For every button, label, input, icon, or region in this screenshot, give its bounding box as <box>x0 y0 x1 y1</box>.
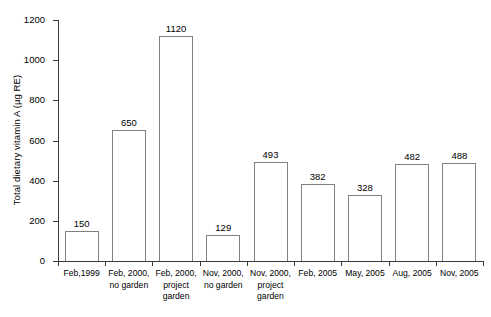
x-label-line: no garden <box>204 280 243 290</box>
x-tick <box>341 261 342 266</box>
bar: 1120 <box>159 36 193 261</box>
bar-value-label: 488 <box>451 150 467 162</box>
bar: 150 <box>65 231 99 261</box>
y-tick-label: 800 <box>29 93 45 106</box>
y-tick: 1000 <box>53 60 58 61</box>
x-axis-label: Aug, 2005 <box>387 268 438 280</box>
bar-value-label: 493 <box>263 149 279 161</box>
y-tick-label: 200 <box>29 214 45 227</box>
y-tick: 800 <box>53 100 58 101</box>
x-label-line: Nov, 2000, <box>250 268 291 278</box>
bar: 482 <box>395 164 429 261</box>
x-tick <box>200 261 201 266</box>
y-tick: 600 <box>53 141 58 142</box>
bar-value-label: 150 <box>74 218 90 230</box>
x-label-line: Aug, 2005 <box>393 268 432 278</box>
x-tick <box>483 261 484 266</box>
x-axis-label: Nov, 2005 <box>434 268 485 280</box>
x-label-line: Nov, 2005 <box>440 268 479 278</box>
x-label-line: project <box>258 280 284 290</box>
x-label-line: Feb, 2000, <box>108 268 149 278</box>
y-tick: 200 <box>53 221 58 222</box>
x-label-line: garden <box>163 291 190 301</box>
x-axis-label: Feb, 2000,no garden <box>103 268 154 291</box>
bar-value-label: 1120 <box>166 23 186 35</box>
y-tick: 1200 <box>53 20 58 21</box>
x-label-line: project <box>163 280 189 290</box>
x-label-line: May, 2005 <box>345 268 385 278</box>
bar: 488 <box>442 163 476 261</box>
y-tick: 400 <box>53 181 58 182</box>
bar-value-label: 328 <box>357 182 373 194</box>
bar: 328 <box>348 195 382 261</box>
bar-value-label: 650 <box>121 117 137 129</box>
x-tick <box>58 261 59 266</box>
bar-value-label: 129 <box>215 222 231 234</box>
x-axis-label: May, 2005 <box>339 268 390 280</box>
x-tick <box>152 261 153 266</box>
y-tick-label: 1000 <box>24 53 45 66</box>
y-tick-label: 400 <box>29 174 45 187</box>
x-axis-label: Feb, 2005 <box>292 268 343 280</box>
x-axis-label: Nov, 2000,projectgarden <box>245 268 296 303</box>
x-axis-label: Feb, 2000,projectgarden <box>150 268 201 303</box>
y-tick-label: 1200 <box>24 13 45 26</box>
x-tick <box>247 261 248 266</box>
x-label-line: no garden <box>109 280 148 290</box>
x-axis-line <box>58 261 483 262</box>
x-tick <box>294 261 295 266</box>
x-label-line: Feb, 2000, <box>156 268 197 278</box>
x-label-line: Feb,1999 <box>63 268 99 278</box>
x-axis-labels: Feb,1999Feb, 2000,no gardenFeb, 2000,pro… <box>58 268 483 314</box>
y-axis-line <box>58 20 59 261</box>
x-axis-label: Feb,1999 <box>56 268 107 280</box>
x-axis-label: Nov, 2000,no garden <box>198 268 249 291</box>
plot-area: 020040060080010001200 150650112012949338… <box>58 20 483 261</box>
y-tick-label: 600 <box>29 134 45 147</box>
x-label-line: Nov, 2000, <box>203 268 244 278</box>
x-tick <box>105 261 106 266</box>
x-tick <box>389 261 390 266</box>
vitamin-a-bar-chart: Total dietary vitamin A (µg RE) 02004006… <box>0 0 491 317</box>
y-axis-title: Total dietary vitamin A (µg RE) <box>10 10 24 270</box>
bar: 493 <box>254 162 288 261</box>
bar-value-label: 382 <box>310 171 326 183</box>
x-tick <box>436 261 437 266</box>
bar: 129 <box>206 235 240 261</box>
bar: 382 <box>301 184 335 261</box>
bar: 650 <box>112 130 146 261</box>
y-tick-label: 0 <box>40 254 45 267</box>
x-label-line: garden <box>257 291 284 301</box>
bar-value-label: 482 <box>404 151 420 163</box>
x-label-line: Feb, 2005 <box>298 268 337 278</box>
